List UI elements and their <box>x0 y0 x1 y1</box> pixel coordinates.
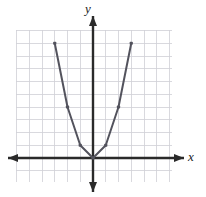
data-point-marker <box>66 105 69 108</box>
data-point-marker <box>79 144 82 147</box>
x-axis-label: x <box>188 150 194 163</box>
y-axis-arrow-up-icon <box>89 16 97 26</box>
y-axis-label: y <box>85 2 91 15</box>
data-point-marker <box>130 42 133 45</box>
data-point-marker <box>104 144 107 147</box>
x-axis-arrow-right-icon <box>174 154 184 162</box>
axes <box>8 16 184 192</box>
data-point-marker <box>53 42 56 45</box>
y-axis-arrow-down-icon <box>89 182 97 192</box>
coordinate-plane <box>0 0 206 197</box>
graph-figure: y x <box>0 0 206 197</box>
data-point-marker <box>91 156 94 159</box>
data-point-marker <box>117 105 120 108</box>
x-axis-arrow-left-icon <box>8 154 18 162</box>
